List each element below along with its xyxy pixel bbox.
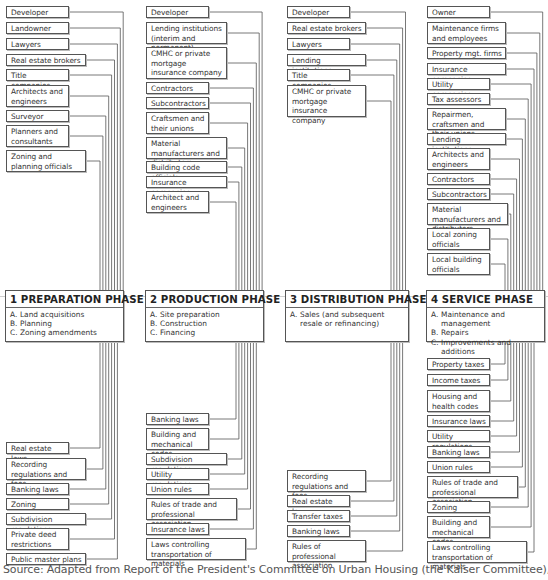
actor-box-local-zoning-officials: Local zoning officials <box>427 228 490 250</box>
actor-box-cmhc-or-private-mortgage-insurance-company: CMHC or private mortgage insurance compa… <box>287 85 366 117</box>
actor-box-architect-and-engineers: Architect and engineers <box>146 191 209 213</box>
phase-item: B.Repairs <box>431 328 540 337</box>
phase-item-text: Planning <box>20 319 52 328</box>
actor-box-property-taxes: Property taxes <box>427 358 490 370</box>
phase-item: A.Land acquisitions <box>10 310 119 319</box>
phase-item-text: Sales (and subsequent resale or refinanc… <box>300 310 404 328</box>
phase-items: A.Land acquisitionsB.PlanningC.Zoning am… <box>6 308 123 340</box>
actor-box-building-and-mechanical-codes: Building and mechanical codes <box>427 516 490 538</box>
phase-item-text: Financing <box>160 328 195 337</box>
phase-title: 3 DISTRIBUTION PHASE <box>286 291 408 308</box>
actor-box-repairmen-craftsmen-and-their-unions: Repairmen, craftsmen and their unions <box>427 108 506 130</box>
actor-box-insurance-companies: Insurance companies <box>146 176 227 188</box>
phase-item-letter: A. <box>290 310 300 328</box>
actor-box-banking-laws: Banking laws <box>287 525 350 537</box>
actor-box-craftsmen-and-their-unions: Craftsmen and their unions <box>146 112 209 134</box>
actor-box-insurance-laws: Insurance laws <box>427 415 490 427</box>
actor-box-zoning-and-planning-officials: Zoning and planning officials <box>6 150 86 172</box>
phase-item: A.Maintenance and management <box>431 310 540 328</box>
phase-title: 1 PREPARATION PHASE <box>6 291 123 308</box>
source-note: Source: Adapted from Report of the Presi… <box>3 563 548 576</box>
actor-box-real-estate-laws: Real estate laws <box>6 442 69 454</box>
actor-box-real-estate-law: Real estate law <box>287 495 350 507</box>
phase-item-text: Zoning amendments <box>20 328 97 337</box>
actor-box-contractors: Contractors <box>427 173 490 185</box>
actor-box-lending-institutions: Lending institutions <box>287 54 366 66</box>
phase-item-letter: B. <box>431 328 441 337</box>
actor-box-subdivision-regulations: Subdivision regulations <box>146 453 227 465</box>
actor-box-utility-companies: Utility companies <box>427 78 490 90</box>
phase-item-text: Repairs <box>441 328 469 337</box>
phase-box-4: 4 SERVICE PHASEA.Maintenance and managem… <box>426 290 545 342</box>
actor-box-laws-controlling-transportation-of-materials: Laws controlling transportation of mater… <box>427 541 527 563</box>
actor-box-lawyers: Lawyers <box>6 38 69 50</box>
actor-box-title-companies: Title companies <box>287 69 350 81</box>
actor-box-developer: Developer <box>6 6 69 18</box>
phase-item: B.Planning <box>10 319 119 328</box>
phase-item: C.Zoning amendments <box>10 328 119 337</box>
phase-item: C.Financing <box>150 328 259 337</box>
actor-box-contractors: Contractors <box>146 82 209 94</box>
phase-title: 4 SERVICE PHASE <box>427 291 544 308</box>
actor-box-income-taxes: Income taxes <box>427 374 490 386</box>
actor-box-zoning: Zoning <box>427 501 490 513</box>
actor-box-tax-assessors: Tax assessors <box>427 93 490 105</box>
actor-box-material-manufacturers-and-distributors: Material manufacturers and distributors <box>146 137 227 159</box>
phase-item-letter: B. <box>150 319 160 328</box>
actor-box-building-and-mechanical-codes: Building and mechanical codes <box>146 428 209 450</box>
actor-box-material-manufacturers-and-distributors: Material manufacturers and distributors <box>427 203 508 225</box>
phase-item-letter: C. <box>10 328 20 337</box>
phase-item-text: Site preparation <box>160 310 220 319</box>
phase-item: A.Site preparation <box>150 310 259 319</box>
actor-box-housing-and-health-codes: Housing and health codes <box>427 390 490 412</box>
phase-item-letter: C. <box>431 338 441 356</box>
actor-box-banking-laws: Banking laws <box>6 483 69 495</box>
actor-box-rules-of-trade-and-professional-association: Rules of trade and professional associat… <box>427 476 518 498</box>
phase-box-3: 3 DISTRIBUTION PHASEA.Sales (and subsequ… <box>285 290 409 342</box>
housing-process-diagram: DeveloperLandownerLawyersReal estate bro… <box>0 0 548 580</box>
actor-box-zoning: Zoning <box>6 498 69 510</box>
actor-box-cmhc-or-private-mortgage-insurance-company: CMHC or private mortgage insurance compa… <box>146 47 227 79</box>
actor-box-insurance-companies: Insurance companies <box>427 63 506 75</box>
actor-box-owner: Owner <box>427 6 490 18</box>
actor-box-rules-of-professional-association: Rules of professional association <box>287 540 366 562</box>
phase-item: A.Sales (and subsequent resale or refina… <box>290 310 404 328</box>
phase-item-text: Land acquisitions <box>20 310 84 319</box>
actor-box-recording-regulations-and-fees: Recording regulations and fees <box>6 458 86 480</box>
actor-box-banking-laws: Banking laws <box>146 413 209 425</box>
actor-box-real-estate-brokers: Real estate brokers <box>6 54 86 66</box>
actor-box-maintenance-firms-and-employees: Maintenance firms and employees <box>427 22 506 44</box>
actor-box-subcontractors: Subcontractors <box>427 188 490 200</box>
actor-box-lawyers: Lawyers <box>287 38 350 50</box>
actor-box-subdivision-regulations: Subdivision regulations <box>6 513 86 525</box>
actor-box-architects-and-engineers: Architects and engineers <box>6 85 69 107</box>
actor-box-lending-institutions-interim-and-permanent: Lending institutions (interim and perman… <box>146 22 227 44</box>
actor-box-developer: Developer <box>146 6 209 18</box>
actor-box-local-building-officials: Local building officials <box>427 253 490 275</box>
phase-box-2: 2 PRODUCTION PHASEA.Site preparationB.Co… <box>145 290 264 342</box>
actor-box-planners-and-consultants: Planners and consultants <box>6 125 69 147</box>
phase-item-text: Construction <box>160 319 207 328</box>
phase-box-1: 1 PREPARATION PHASEA.Land acquisitionsB.… <box>5 290 124 342</box>
phase-title: 2 PRODUCTION PHASE <box>146 291 263 308</box>
actor-box-subcontractors: Subcontractors <box>146 97 209 109</box>
actor-box-insurance-laws: Insurance laws <box>146 523 209 535</box>
actor-box-lending-institutions: Lending institutions <box>427 133 506 145</box>
actor-box-real-estate-brokers: Real estate brokers <box>287 22 366 34</box>
actor-box-architects-and-engineers: Architects and engineers <box>427 148 490 170</box>
phase-items: A.Maintenance and managementB.RepairsC.I… <box>427 308 544 358</box>
actor-box-rules-of-trade-and-professional-association: Rules of trade and professional associat… <box>146 498 237 520</box>
actor-box-recording-regulations-and-fees: Recording regulations and fees <box>287 470 366 492</box>
actor-box-title-companies: Title companies <box>6 69 69 81</box>
actor-box-landowner: Landowner <box>6 22 69 34</box>
actor-box-utility-regulations: Utility regulations <box>146 468 209 480</box>
phase-item-letter: A. <box>431 310 441 328</box>
phase-item-letter: A. <box>10 310 20 319</box>
actor-box-private-deed-restrictions: Private deed restrictions <box>6 528 69 550</box>
phase-item-text: Maintenance and management <box>441 310 540 328</box>
actor-box-surveyor: Surveyor <box>6 110 69 122</box>
actor-box-laws-controlling-transportation-of-materials: Laws controlling transportation of mater… <box>146 538 246 560</box>
actor-box-property-mgt-firms: Property mgt. firms <box>427 47 506 59</box>
phase-item-letter: A. <box>150 310 160 319</box>
actor-box-transfer-taxes: Transfer taxes <box>287 510 350 522</box>
